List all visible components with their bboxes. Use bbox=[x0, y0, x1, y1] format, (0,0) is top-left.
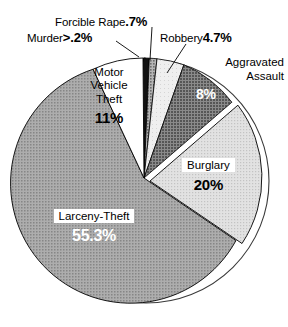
label-aggravated-assault-line2: Assault bbox=[188, 70, 284, 84]
label-larceny-theft-name: Larceny-Theft bbox=[54, 209, 135, 223]
label-forcible-rape: Forcible Rape.7% bbox=[55, 13, 147, 30]
label-motor-vehicle-theft-line1: Motor bbox=[94, 66, 123, 78]
label-motor-vehicle-theft-line3: Theft bbox=[96, 93, 122, 105]
value-larceny-theft: 55.3% bbox=[35, 227, 153, 245]
label-aggravated-assault: Aggravated Assault bbox=[188, 56, 284, 83]
value-motor-vehicle-theft: 11% bbox=[78, 109, 140, 126]
label-aggravated-assault-line1: Aggravated bbox=[225, 56, 284, 68]
label-murder-value: >.2% bbox=[63, 30, 92, 45]
label-motor-vehicle-theft-line2: Vehicle bbox=[90, 79, 127, 91]
value-aggravated-assault: 8% bbox=[196, 86, 216, 102]
label-motor-vehicle-theft: Motor Vehicle Theft 11% bbox=[78, 66, 140, 126]
label-burglary-name: Burglary bbox=[182, 158, 235, 172]
leader-line-forcible-rape bbox=[150, 27, 152, 60]
label-robbery-value: 4.7% bbox=[203, 30, 232, 45]
label-forcible-rape-value: .7% bbox=[125, 14, 147, 29]
label-robbery: Robbery4.7% bbox=[160, 29, 232, 46]
pie-chart: Forcible Rape.7% Murder>.2% Robbery4.7% … bbox=[0, 0, 288, 327]
label-murder: Murder>.2% bbox=[27, 29, 92, 46]
pie-chart-canvas bbox=[0, 0, 288, 327]
label-forcible-rape-name: Forcible Rape bbox=[55, 16, 125, 28]
value-burglary: 20% bbox=[182, 176, 235, 193]
label-burglary: Burglary 20% bbox=[182, 155, 235, 193]
leader-line-murder bbox=[116, 41, 139, 57]
label-larceny-theft: Larceny-Theft 55.3% bbox=[35, 206, 153, 245]
label-murder-name: Murder bbox=[27, 32, 63, 44]
label-robbery-name: Robbery bbox=[160, 32, 203, 44]
